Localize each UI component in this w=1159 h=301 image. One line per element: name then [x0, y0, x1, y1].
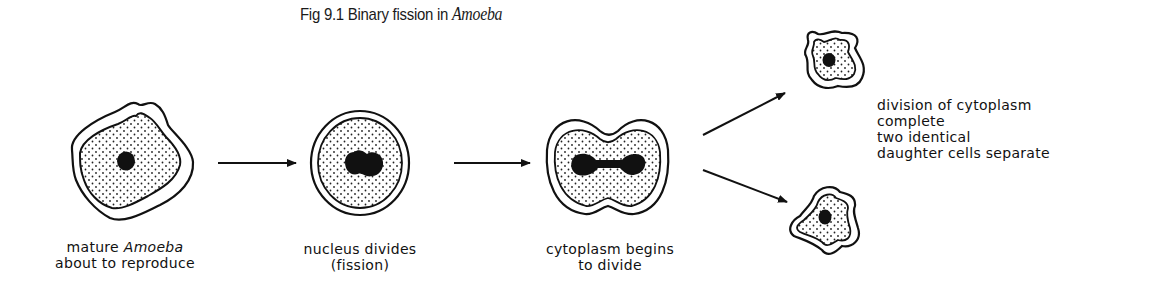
- caption-nucleus-line1: nucleus divides: [290, 241, 430, 257]
- caption-division-complete: division of cytoplasm complete two ident…: [877, 97, 1050, 161]
- caption-complete-line3: two identical: [877, 129, 1050, 145]
- cytoplasm-dividing-cell: [547, 120, 669, 214]
- caption-mature-italic: Amoeba: [124, 239, 184, 255]
- nucleus-dividing: [345, 150, 383, 176]
- caption-mature: mature Amoeba about to reproduce: [50, 239, 200, 271]
- arrow-up: [703, 93, 785, 135]
- caption-complete-line2: complete: [877, 113, 1050, 129]
- caption-mature-line2: about to reproduce: [50, 255, 200, 271]
- caption-complete-line4: daughter cells separate: [877, 145, 1050, 161]
- nucleus: [117, 152, 135, 171]
- caption-cytoplasm-line2: to divide: [535, 257, 685, 273]
- daughter-cell-top: [805, 31, 864, 88]
- caption-mature-line1: mature: [67, 239, 124, 255]
- caption-complete-line1: division of cytoplasm: [877, 97, 1050, 113]
- caption-nucleus-divides: nucleus divides (fission): [290, 241, 430, 273]
- arrow-down: [703, 170, 787, 202]
- caption-nucleus-line2: (fission): [290, 257, 430, 273]
- dividing-nucleus-cell: [311, 111, 409, 215]
- caption-cytoplasm-begins: cytoplasm begins to divide: [535, 241, 685, 273]
- caption-cytoplasm-line1: cytoplasm begins: [535, 241, 685, 257]
- mature-amoeba-cell: [72, 103, 193, 220]
- daughter-cell-bottom: [790, 187, 859, 254]
